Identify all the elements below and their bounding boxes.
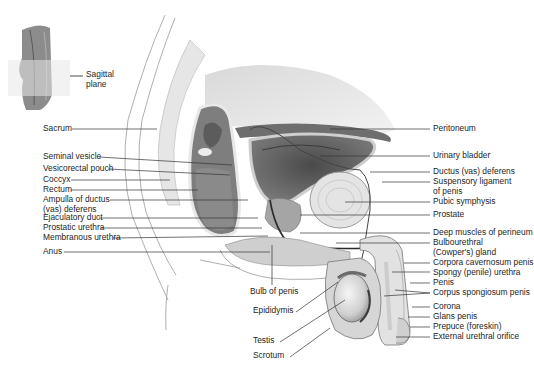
- label-anus: Anus: [43, 247, 62, 257]
- label-urinary-bladder: Urinary bladder: [433, 151, 490, 161]
- label-peritoneum: Peritoneum: [433, 124, 476, 134]
- pubic-symphysis-shape: [310, 172, 370, 228]
- label-testis: Testis: [253, 336, 274, 346]
- label-line: (Cowper's) gland: [433, 248, 496, 258]
- label-bulbourethral-gland: Bulbourethral (Cowper's) gland: [433, 238, 496, 257]
- label-line: plane: [86, 80, 114, 90]
- label-sacrum: Sacrum: [43, 124, 72, 134]
- label-vesicorectal-pouch: Vesicorectal pouch: [43, 164, 113, 174]
- label-corpus-spongiosum: Corpus spongiosum penis: [433, 288, 530, 298]
- label-prostate: Prostate: [433, 210, 464, 220]
- testis-shape: [334, 274, 370, 322]
- label-external-urethral-orifice: External urethral orifice: [433, 332, 519, 342]
- label-suspensory-ligament: Suspensory ligament of penis: [433, 177, 511, 196]
- label-seminal-vesicle: Seminal vesicle: [43, 152, 101, 162]
- anatomy-diagram: Sagittal plane Sacrum Seminal vesicle Ve…: [0, 0, 534, 375]
- label-scrotum: Scrotum: [253, 351, 284, 361]
- label-bulb-of-penis: Bulb of penis: [250, 287, 298, 297]
- label-membranous-urethra: Membranous urethra: [43, 233, 121, 243]
- inset-figure: [8, 25, 83, 110]
- label-epididymis: Epididymis: [253, 306, 294, 316]
- label-line: of penis: [433, 187, 511, 197]
- label-pubic-symphysis: Pubic symphysis: [433, 197, 495, 207]
- label-sagittal-plane: Sagittal plane: [86, 70, 114, 89]
